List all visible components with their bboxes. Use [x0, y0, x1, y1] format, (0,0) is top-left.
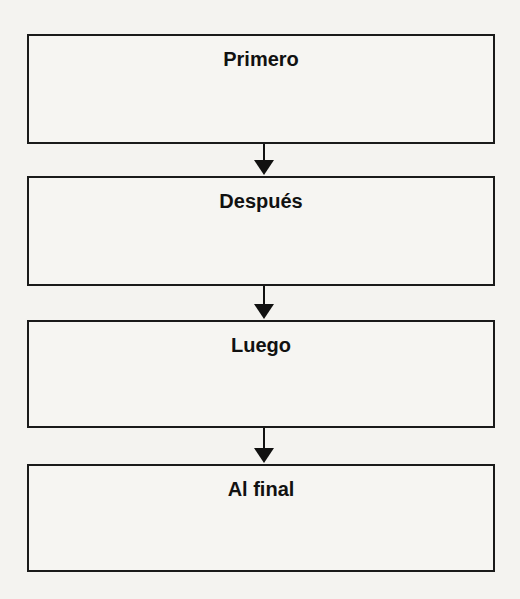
step-title: Al final: [29, 478, 493, 501]
step-title: Después: [29, 190, 493, 213]
step-box-al-final: Al final: [27, 464, 495, 572]
step-box-despues: Después: [27, 176, 495, 286]
step-box-primero: Primero: [27, 34, 495, 144]
step-box-luego: Luego: [27, 320, 495, 428]
arrow-down-icon: [254, 448, 274, 463]
arrow-down-icon: [254, 304, 274, 319]
step-title: Primero: [29, 48, 493, 71]
arrow-down-icon: [254, 160, 274, 175]
arrow-3: [254, 428, 274, 464]
arrow-line: [263, 286, 265, 306]
arrow-1: [254, 144, 274, 176]
arrow-2: [254, 286, 274, 320]
step-title: Luego: [29, 334, 493, 357]
arrow-line: [263, 428, 265, 450]
